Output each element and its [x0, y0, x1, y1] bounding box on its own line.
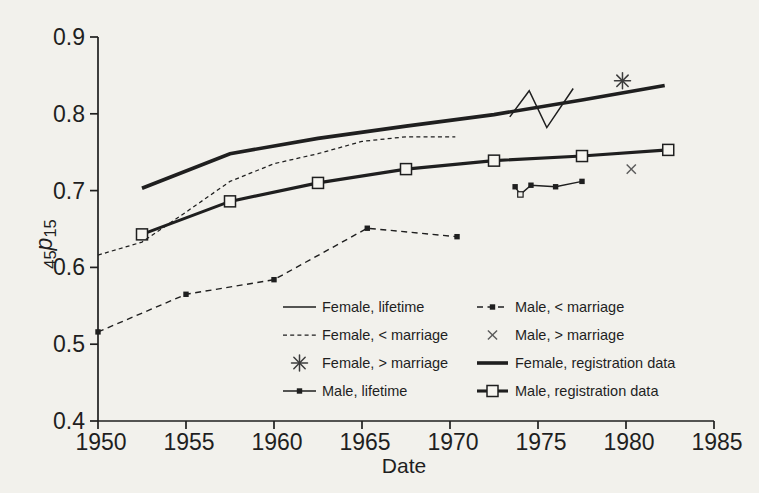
- series-male-lifetime: [512, 179, 584, 197]
- asterisk-marker: [292, 355, 308, 371]
- legend-item-male-lifetime: Male, lifetime: [283, 383, 407, 399]
- small-square-marker: [454, 234, 459, 239]
- series-line-female-before-marriage: [98, 137, 455, 255]
- x-tick-label-1965: 1965: [339, 429, 390, 455]
- legend-label-female-before-marriage: Female, < marriage: [322, 327, 448, 343]
- legend-item-female-registration: Female, registration data: [477, 355, 676, 371]
- small-square-marker: [183, 292, 188, 297]
- open-small-square-marker: [518, 192, 523, 197]
- series-female-before-marriage: [98, 137, 455, 255]
- x-tick-label-1960: 1960: [251, 429, 302, 455]
- x-tick-label-1975: 1975: [515, 429, 566, 455]
- x-axis-title: Date: [382, 454, 426, 477]
- asterisk-marker: [614, 73, 630, 89]
- open-square-marker: [225, 196, 236, 207]
- open-square-marker: [313, 177, 324, 188]
- x-tick-label-1985: 1985: [691, 429, 742, 455]
- legend-item-male-registration: Male, registration data: [477, 383, 659, 399]
- open-square-marker: [401, 164, 412, 175]
- y-axis-title: 45p15: [31, 219, 59, 269]
- y-tick-label-0.9: 0.9: [53, 24, 85, 50]
- small-square-marker: [512, 184, 517, 189]
- x-cross-marker: [488, 330, 497, 339]
- y-tick-label-0.8: 0.8: [53, 101, 85, 127]
- small-square-marker: [528, 183, 533, 188]
- legend-item-female-after-marriage: Female, > marriage: [292, 355, 449, 371]
- legend-label-male-before-marriage: Male, < marriage: [515, 299, 624, 315]
- legend-label-female-after-marriage: Female, > marriage: [322, 355, 448, 371]
- open-square-marker: [487, 386, 498, 397]
- small-square-marker: [365, 226, 370, 231]
- legend-label-male-lifetime: Male, lifetime: [322, 383, 407, 399]
- legend-label-male-after-marriage: Male, > marriage: [515, 327, 624, 343]
- x-tick-label-1955: 1955: [163, 429, 214, 455]
- y-tick-label-0.7: 0.7: [53, 178, 85, 204]
- series-line-male-before-marriage: [98, 228, 457, 332]
- open-square-marker: [137, 229, 148, 240]
- open-square-marker: [489, 155, 500, 166]
- small-square-marker: [95, 329, 100, 334]
- small-square-marker: [297, 388, 302, 393]
- x-tick-label-1980: 1980: [603, 429, 654, 455]
- small-square-marker: [271, 277, 276, 282]
- small-square-marker: [490, 304, 495, 309]
- legend-label-female-lifetime: Female, lifetime: [322, 299, 424, 315]
- open-square-marker: [577, 151, 588, 162]
- series-female-after-marriage: [614, 73, 630, 89]
- legend-label-male-registration: Male, registration data: [515, 383, 659, 399]
- x-cross-marker: [627, 164, 636, 173]
- small-square-marker: [553, 184, 558, 189]
- x-tick-label-1950: 1950: [75, 429, 126, 455]
- series-male-after-marriage: [627, 164, 636, 173]
- series-male-before-marriage: [95, 226, 459, 335]
- legend-item-female-before-marriage: Female, < marriage: [283, 327, 448, 343]
- series-line-male-lifetime: [515, 181, 582, 194]
- small-square-marker: [579, 179, 584, 184]
- legend-item-male-before-marriage: Male, < marriage: [477, 299, 624, 315]
- y-tick-label-0.5: 0.5: [53, 331, 85, 357]
- series-line-male-registration: [142, 150, 668, 235]
- figure-root: 0.40.50.60.70.80.91950195519601965197019…: [0, 0, 759, 493]
- open-square-marker: [663, 144, 674, 155]
- legend-item-male-after-marriage: Male, > marriage: [488, 327, 624, 343]
- legend-item-female-lifetime: Female, lifetime: [283, 299, 424, 315]
- x-tick-label-1970: 1970: [427, 429, 478, 455]
- legend-label-female-registration: Female, registration data: [515, 355, 676, 371]
- survival-probability-chart: 0.40.50.60.70.80.91950195519601965197019…: [0, 0, 759, 493]
